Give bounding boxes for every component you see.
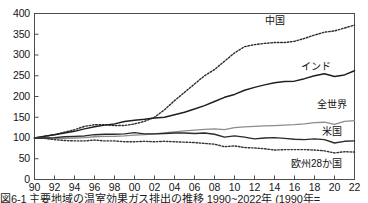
x-axis-ticks [35, 176, 355, 180]
series-label-india: インド [301, 62, 331, 72]
y-tick-label: 400 [2, 8, 30, 19]
y-tick-label: 250 [2, 70, 30, 81]
chart-canvas [0, 0, 368, 203]
figure-caption: 図6-1 主要地域の温室効果ガス排出の推移 1990~2022年 (1990年= [0, 190, 368, 203]
y-tick-label: 50 [2, 153, 30, 164]
series-label-world: 全世界 [317, 100, 347, 110]
y-tick-label: 350 [2, 29, 30, 40]
y-tick-label: 100 [2, 132, 30, 143]
y-axis-ticks [35, 14, 39, 180]
series-label-eu28: 欧州28か国 [291, 159, 342, 169]
y-tick-label: 150 [2, 112, 30, 123]
series-label-usa: 米国 [322, 127, 342, 137]
data-series-group [35, 25, 355, 153]
series-line-欧州28か国 [35, 138, 355, 153]
series-label-china: 中国 [265, 16, 285, 26]
figure-container: 400 350 300 250 200 150 100 50 0 9092949… [0, 0, 368, 203]
y-tick-label: 300 [2, 49, 30, 60]
series-line-インド [35, 71, 355, 138]
y-tick-label: 200 [2, 91, 30, 102]
series-line-中国 [35, 25, 355, 138]
